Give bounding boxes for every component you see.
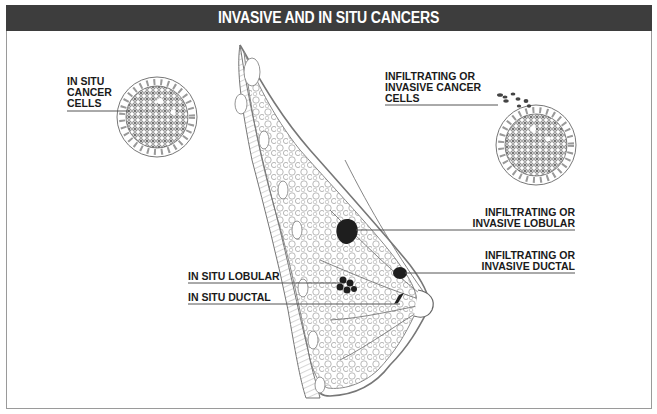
label-in-situ-cancer-cells: IN SITU CANCER CELLS	[67, 76, 112, 109]
label-invasive-lobular: INFILTRATING OR INVASIVE LOBULAR	[473, 207, 575, 229]
in-situ-cells-illustration	[117, 77, 197, 157]
invasive-cells-illustration	[496, 92, 576, 185]
label-in-situ-lobular: IN SITU LOBULAR	[188, 271, 280, 282]
label-invasive-ductal: INFILTRATING OR INVASIVE DUCTAL	[481, 250, 575, 272]
label-invasive-cancer-cells: INFILTRATING OR INVASIVE CANCER CELLS	[385, 71, 481, 104]
invasive-ductal-tumor	[393, 267, 407, 279]
label-in-situ-ductal: IN SITU DUCTAL	[188, 292, 271, 303]
